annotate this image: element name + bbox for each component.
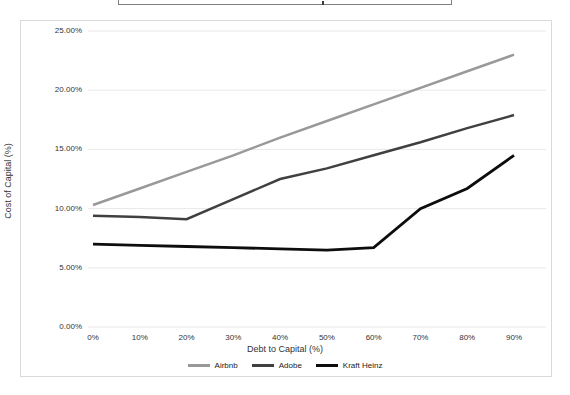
legend-item-adobe: Adobe [252,361,302,370]
y-tick-label: 0.00% [38,322,82,332]
legend-swatch [188,364,210,367]
x-tick-label: 0% [71,333,115,343]
legend-label: Kraft Heinz [343,361,383,370]
x-tick-label: 70% [398,333,442,343]
series-line-adobe [93,115,514,219]
legend-item-kraft-heinz: Kraft Heinz [316,361,383,370]
legend-label: Airbnb [215,361,238,370]
x-tick-label: 40% [258,333,302,343]
x-tick-label: 20% [165,333,209,343]
y-tick-label: 25.00% [38,26,82,36]
y-tick-label: 5.00% [38,263,82,273]
legend-item-airbnb: Airbnb [188,361,238,370]
y-tick-label: 20.00% [38,85,82,95]
series-line-airbnb [93,55,514,205]
legend-label: Adobe [279,361,302,370]
y-axis-title: Cost of Capital (%) [3,116,13,246]
x-tick-label: 30% [211,333,255,343]
x-tick-label: 10% [118,333,162,343]
legend-swatch [252,364,274,367]
x-tick-label: 80% [445,333,489,343]
series-line-kraft-heinz [93,155,514,250]
x-tick-label: 50% [305,333,349,343]
x-tick-label: 60% [352,333,396,343]
x-tick-label: 90% [492,333,536,343]
legend-swatch [316,364,338,367]
y-tick-label: 10.00% [38,204,82,214]
screenshot-root: 0.00%5.00%10.00%15.00%20.00%25.00% 0%10%… [0,0,570,395]
y-tick-label: 15.00% [38,144,82,154]
legend: AirbnbAdobeKraft Heinz [0,359,570,371]
x-axis-title: Debt to Capital (%) [0,344,570,354]
